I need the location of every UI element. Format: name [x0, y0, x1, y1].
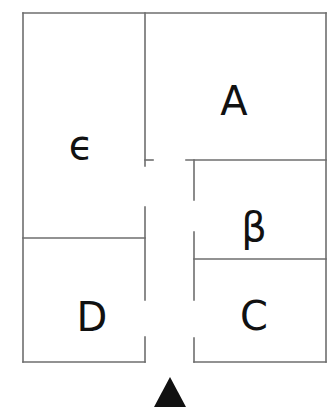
room-label-e: ϵ [69, 122, 94, 168]
walls [23, 13, 326, 362]
room-label-d: D [77, 294, 108, 340]
room-label-c: C [240, 293, 268, 339]
room-label-b: β [241, 204, 267, 250]
room-label-a: A [220, 78, 248, 124]
room-labels: A β C D ϵ [69, 78, 268, 340]
floor-plan-diagram: A β C D ϵ [0, 0, 336, 416]
entrance-triangle-icon [154, 377, 186, 407]
